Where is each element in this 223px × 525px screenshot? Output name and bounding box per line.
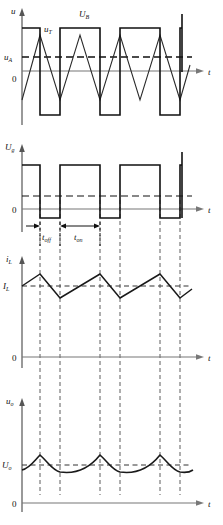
- waveform-diagram: u t 0 uA uT UB: [0, 0, 223, 525]
- square-wave-label: UB: [79, 9, 90, 20]
- reference-level-label: uA: [4, 52, 13, 63]
- panel-4-origin-label: 0: [12, 499, 17, 509]
- mean-current-label: IL: [2, 281, 10, 292]
- panel-1-y-arrow: [19, 8, 25, 16]
- panel-4-y-arrow: [19, 398, 25, 406]
- triangle-wave-label: uT: [44, 24, 53, 35]
- panel-1: u t 0 uA uT UB: [4, 6, 211, 125]
- panel-2-y-axis-label: Ug: [5, 142, 15, 153]
- panel-1-origin-label: 0: [12, 74, 17, 84]
- panel-2-origin-label: 0: [12, 205, 17, 215]
- panel-3-origin-label: 0: [12, 353, 17, 363]
- t-on-label: ton: [74, 232, 83, 243]
- panel-3-y-axis-label: iL: [6, 254, 13, 265]
- switching-guide-lines: [40, 200, 180, 495]
- output-voltage-ripple: [22, 455, 193, 472]
- panel-4-x-axis-label: t: [208, 499, 211, 509]
- panel-2-y-arrow: [19, 144, 25, 152]
- panel-1-x-arrow: [196, 68, 204, 73]
- panel-4-x-arrow: [196, 500, 204, 505]
- panel-3-x-arrow: [196, 354, 204, 359]
- panel-3-x-axis-label: t: [208, 353, 211, 363]
- panel-1-x-axis-label: t: [208, 67, 211, 77]
- panel-2-x-arrow: [196, 206, 204, 211]
- panel-4-y-axis-label: uo: [6, 396, 14, 407]
- t-off-label: toff: [42, 232, 52, 243]
- mean-output-voltage-label: Uo: [2, 460, 12, 471]
- triangle-carrier-wave: [22, 35, 190, 100]
- panel-3-y-arrow: [19, 256, 25, 264]
- figure-canvas: u t 0 uA uT UB: [0, 0, 223, 525]
- panel-2-x-axis-label: t: [208, 205, 211, 215]
- panel-1-y-axis-label: u: [11, 6, 16, 16]
- gate-drive-square-wave: [22, 165, 182, 218]
